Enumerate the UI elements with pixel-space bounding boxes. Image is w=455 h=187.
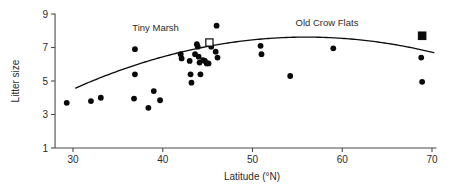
data-point bbox=[157, 97, 163, 103]
y-tick-label: 9 bbox=[42, 9, 48, 20]
data-point bbox=[258, 43, 264, 49]
y-axis-tick-labels: 13579 bbox=[42, 9, 48, 154]
data-point bbox=[132, 71, 138, 77]
data-point bbox=[64, 100, 70, 106]
data-point bbox=[132, 46, 138, 52]
plot-canvas: 13579 3040506070 Litter size Latitude (°… bbox=[0, 0, 455, 187]
data-point bbox=[214, 23, 220, 29]
y-tick-label: 5 bbox=[42, 76, 48, 87]
data-point bbox=[179, 55, 185, 61]
data-point bbox=[213, 49, 219, 55]
annotation-label-tiny-marsh: Tiny Marsh bbox=[132, 22, 179, 33]
data-point bbox=[330, 45, 336, 51]
data-point bbox=[206, 61, 212, 67]
x-tick-label: 50 bbox=[247, 154, 259, 165]
data-point bbox=[418, 55, 424, 61]
y-tick-label: 1 bbox=[42, 143, 48, 154]
tiny-marsh-marker bbox=[206, 39, 213, 46]
x-tick-label: 30 bbox=[67, 154, 79, 165]
x-tick-label: 60 bbox=[337, 154, 349, 165]
data-point bbox=[215, 55, 221, 61]
y-axis-title: Litter size bbox=[10, 59, 21, 102]
scatter-plot-figure: 13579 3040506070 Litter size Latitude (°… bbox=[0, 0, 455, 187]
annotation-label-old-crow-flats: Old Crow Flats bbox=[296, 17, 359, 28]
data-point bbox=[145, 105, 151, 111]
x-axis-ticks bbox=[73, 148, 432, 152]
data-point bbox=[195, 44, 201, 50]
y-tick-label: 3 bbox=[42, 109, 48, 120]
old-crow-flats-marker bbox=[418, 32, 426, 40]
data-point-group bbox=[64, 23, 425, 111]
axes-group bbox=[51, 14, 436, 153]
data-point bbox=[287, 73, 293, 79]
x-axis-title: Latitude (°N) bbox=[224, 171, 280, 182]
data-point bbox=[189, 80, 195, 86]
data-point bbox=[187, 58, 193, 64]
y-tick-label: 7 bbox=[42, 42, 48, 53]
data-point bbox=[188, 71, 194, 77]
x-tick-label: 40 bbox=[157, 154, 169, 165]
data-point bbox=[419, 79, 425, 85]
data-point bbox=[198, 71, 204, 77]
regression-fit-curve bbox=[76, 37, 434, 88]
data-point bbox=[98, 95, 104, 101]
data-point bbox=[259, 51, 265, 57]
x-axis-tick-labels: 3040506070 bbox=[67, 154, 438, 165]
data-point bbox=[151, 88, 157, 94]
data-point bbox=[88, 98, 94, 104]
y-axis-ticks bbox=[51, 14, 55, 148]
data-point bbox=[131, 96, 137, 102]
x-tick-label: 70 bbox=[426, 154, 438, 165]
